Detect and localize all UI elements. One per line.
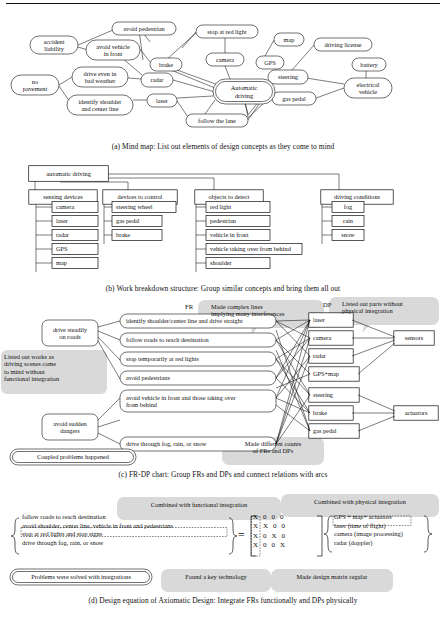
fr-boxes bbox=[120, 314, 276, 451]
dp-vector-row: GPS + map+ actuators bbox=[334, 513, 424, 522]
figure-root: .ln{stroke:#111;stroke-width:.55;fill:no… bbox=[0, 0, 446, 619]
balloon-physical-integration: Combined with physical integration bbox=[281, 498, 439, 505]
mindmap-node-shapes bbox=[11, 22, 392, 127]
fr-column-header: FR bbox=[185, 303, 193, 310]
fr-vector-row: avoid shoulder, center line, vehicle in … bbox=[22, 522, 230, 531]
wbs-boxes bbox=[29, 166, 393, 269]
note-key-technology: Found a key technology bbox=[161, 573, 271, 580]
frdp-conclusion-shape bbox=[10, 449, 136, 465]
fr-vector-row: follow roads to reach destination bbox=[22, 513, 228, 522]
fr-vector-row: drive through fog, rain, or snow bbox=[22, 539, 228, 548]
note-regular-matrix: Made design matrix regular bbox=[271, 573, 393, 580]
balloon-no-physical-integration: Listed out parts without physical integr… bbox=[342, 300, 436, 315]
dp-vector-row: laser (time of flight) bbox=[334, 522, 424, 531]
caption-b: (b) Work breakdown structure: Group simi… bbox=[0, 284, 446, 293]
balloon-functional-integration: Combined with functional integration bbox=[117, 501, 281, 508]
matrix-row: X 0 0 X bbox=[253, 541, 286, 550]
dp-vector-row: camera (image processing) bbox=[334, 530, 426, 539]
fr-vector-row: stop at red lights and stop signs bbox=[22, 530, 228, 539]
balloon-no-functional-integration: Listed out works as driving scenes come … bbox=[4, 353, 104, 383]
caption-d: (d) Design equation of Axiomatic Design:… bbox=[0, 596, 446, 605]
matrix-row: X X 0 0 bbox=[253, 522, 286, 531]
balloon-different-counts: Made different counts of FRs and DPs bbox=[227, 440, 319, 455]
dp-vector-row: radar (doppler) bbox=[334, 539, 424, 548]
dp-column-header: DP bbox=[323, 301, 331, 308]
equals-sign: = bbox=[238, 528, 245, 543]
eq-conclusion-shape bbox=[10, 569, 152, 585]
caption-a: (a) Mind map: List out elements of desig… bbox=[0, 142, 446, 151]
caption-c: (c) FR-DP chart: Group FRs and DPs and c… bbox=[0, 470, 446, 479]
balloon-complex-lines: Made complex lines implying many interfe… bbox=[211, 303, 317, 318]
matrix-row: X 0 X 0 bbox=[253, 532, 286, 541]
dp-boxes bbox=[309, 313, 438, 438]
matrix-row: X 0 0 0 bbox=[253, 513, 284, 522]
